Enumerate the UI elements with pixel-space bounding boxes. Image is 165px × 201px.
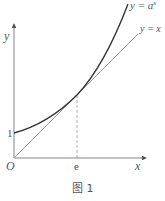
figure-diagram: y = ax y = x y x O e 1 图 1 — [0, 0, 165, 201]
tick-y-1: 1 — [7, 127, 13, 139]
figure-caption: 图 1 — [72, 182, 94, 195]
curve-label: y = ax — [129, 0, 157, 11]
origin-label: O — [6, 159, 15, 173]
y-axis-label: y — [3, 29, 10, 43]
curve-exponential — [14, 4, 128, 133]
tick-x-e: e — [74, 160, 79, 172]
x-axis-label: x — [134, 159, 141, 173]
line-label: y = x — [139, 23, 161, 34]
